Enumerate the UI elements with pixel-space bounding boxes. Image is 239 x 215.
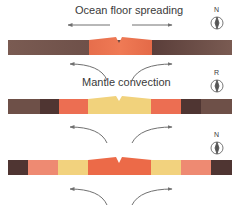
- stage-2: [8, 96, 232, 114]
- convection-arrows-3: [70, 189, 172, 205]
- compass-letter-2: R: [214, 69, 219, 76]
- ridge-band: [89, 37, 152, 55]
- stage-1: [8, 25, 232, 55]
- compass-letter-1: N: [214, 6, 219, 13]
- label-mantle-convection: Mantle convection: [82, 76, 171, 88]
- compass-icon-1: [211, 17, 223, 29]
- compass-letter-3: N: [214, 131, 219, 138]
- seafloor-spreading-diagram: [0, 0, 239, 215]
- title-ocean-floor-spreading: Ocean floor spreading: [75, 4, 183, 16]
- convection-arrows-2: [70, 127, 172, 143]
- stage-3: [8, 157, 232, 175]
- compass-icon-3: [211, 142, 223, 154]
- compass-icon-2: [211, 80, 223, 92]
